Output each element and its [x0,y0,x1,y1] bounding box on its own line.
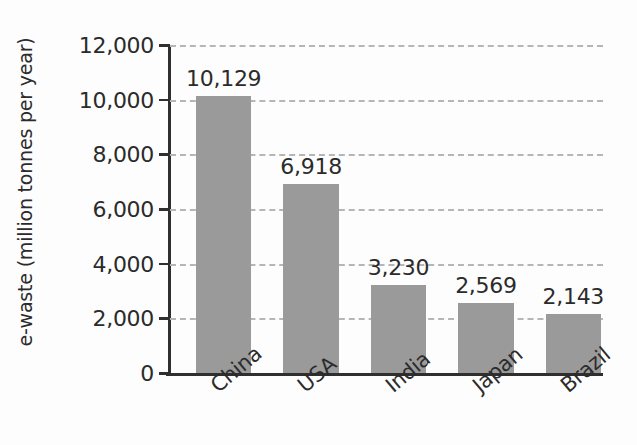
y-axis-title: e-waste (million tonnes per year) [8,0,42,392]
y-axis-tick-mark [159,372,170,375]
y-axis-tick-mark [159,317,170,320]
y-axis-tick-label: 12,000 [79,33,154,58]
bar [283,184,338,373]
plot-area: 02,0004,0006,0008,00010,00012,000 10,129… [168,45,605,373]
chart-page: e-waste (million tonnes per year) 02,000… [0,0,637,445]
y-axis-tick-mark [159,208,170,211]
y-axis-tick-label: 2,000 [93,306,154,331]
bar [196,96,251,373]
y-axis-tick-label: 10,000 [79,87,154,112]
gridline [170,45,603,47]
y-axis-tick-label: 8,000 [93,142,154,167]
bar-value-label: 6,918 [280,154,341,179]
y-axis-tick-mark [159,44,170,47]
y-axis-tick-label: 0 [140,361,154,386]
y-axis-tick-mark [159,153,170,156]
y-axis-tick-mark [159,263,170,266]
y-axis-tick-label: 6,000 [93,197,154,222]
y-axis-tick-mark [159,99,170,102]
bar-value-label: 3,230 [368,255,429,280]
bar-value-label: 10,129 [186,66,261,91]
y-axis-tick-label: 4,000 [93,251,154,276]
bar-value-label: 2,143 [543,284,604,309]
bar-value-label: 2,569 [455,273,516,298]
